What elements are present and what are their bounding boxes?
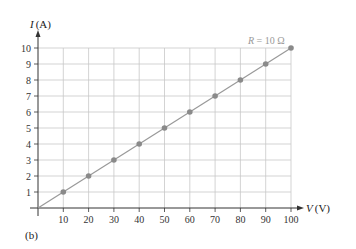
- x-axis-label: V(V): [306, 202, 330, 215]
- data-point: [111, 157, 117, 163]
- data-point: [187, 109, 193, 115]
- iv-chart: 10203040506070809010012345678910 I(A) V(…: [0, 0, 356, 249]
- y-tick-label: 1: [26, 187, 31, 198]
- y-tick-label: 10: [21, 43, 31, 54]
- y-tick-label: 2: [26, 171, 31, 182]
- y-tick-label: 7: [26, 91, 31, 102]
- data-point: [136, 141, 142, 147]
- resistance-annotation: R = 10 Ω: [247, 35, 285, 46]
- data-point: [86, 173, 92, 179]
- y-tick-label: 9: [26, 59, 31, 70]
- x-tick-label: 10: [58, 214, 68, 225]
- x-tick-label: 100: [284, 214, 299, 225]
- x-tick-label: 70: [210, 214, 220, 225]
- y-tick-label: 8: [26, 75, 31, 86]
- y-tick-label: 6: [26, 107, 31, 118]
- y-tick-label: 5: [26, 123, 31, 134]
- data-point: [61, 189, 67, 195]
- x-tick-label: 80: [235, 214, 245, 225]
- y-tick-label: 3: [26, 155, 31, 166]
- x-tick-label: 20: [84, 214, 94, 225]
- x-tick-label: 30: [109, 214, 119, 225]
- axes: [30, 30, 304, 216]
- data-point: [263, 61, 269, 67]
- data-point: [162, 125, 168, 131]
- data-point: [238, 77, 244, 83]
- data-point: [288, 45, 294, 51]
- y-axis-label: I(A): [29, 18, 51, 31]
- data-point: [212, 93, 218, 99]
- x-tick-label: 60: [185, 214, 195, 225]
- x-tick-label: 90: [261, 214, 271, 225]
- x-tick-label: 40: [134, 214, 144, 225]
- panel-label: (b): [25, 229, 38, 242]
- y-tick-label: 4: [26, 139, 31, 150]
- x-tick-label: 50: [160, 214, 170, 225]
